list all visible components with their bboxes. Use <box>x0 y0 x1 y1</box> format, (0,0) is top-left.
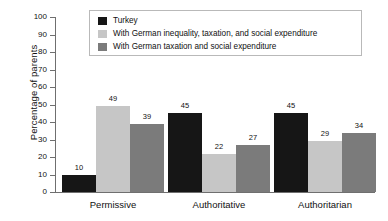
bar-value-label: 45 <box>274 102 308 110</box>
y-tick-label-80: 80 <box>21 48 47 56</box>
legend-item-turkey: Turkey <box>98 15 361 28</box>
y-tick-label-20: 20 <box>21 153 47 161</box>
bar <box>168 113 202 192</box>
bar-value-label: 45 <box>168 102 202 110</box>
legend-label: With German inequality, taxation, and so… <box>113 30 317 38</box>
bar-value-label: 34 <box>342 122 376 130</box>
x-axis-label-permissive: Permissive <box>53 199 173 210</box>
bar <box>342 133 376 193</box>
y-tick-label-100: 100 <box>21 13 47 21</box>
y-tick-mark-0 <box>50 192 55 193</box>
bar-value-label: 39 <box>130 113 164 121</box>
bar-value-label: 10 <box>62 164 96 172</box>
y-tick-label-60: 60 <box>21 83 47 91</box>
legend-swatch-icon <box>98 30 107 38</box>
x-axis-label-authoritarian: Authoritarian <box>265 199 385 210</box>
legend-swatch-icon <box>98 43 107 51</box>
bar <box>236 145 270 192</box>
x-axis-line <box>55 192 375 193</box>
bar-value-label: 49 <box>96 95 130 103</box>
y-tick-label-10: 10 <box>21 171 47 179</box>
legend-item-german-taxation-social: With German taxation and social expendit… <box>98 41 361 54</box>
bar-value-label: 27 <box>236 134 270 142</box>
bar-chart: Percentage of parents 100908070605040302… <box>0 0 388 221</box>
y-tick-label-70: 70 <box>21 66 47 74</box>
bar <box>202 154 236 193</box>
legend-label: With German taxation and social expendit… <box>113 43 276 51</box>
bar <box>308 141 342 192</box>
bar <box>274 113 308 192</box>
y-tick-label-50: 50 <box>21 101 47 109</box>
y-tick-label-40: 40 <box>21 118 47 126</box>
bar <box>96 106 130 192</box>
bar <box>62 175 96 193</box>
legend: Turkey With German inequality, taxation,… <box>89 10 362 56</box>
legend-swatch-icon <box>98 17 107 25</box>
bar-value-label: 29 <box>308 130 342 138</box>
x-axis-label-authoritative: Authoritative <box>159 199 279 210</box>
y-tick-label-0: 0 <box>21 188 47 196</box>
legend-label: Turkey <box>113 17 138 25</box>
y-tick-label-90: 90 <box>21 31 47 39</box>
y-tick-label-30: 30 <box>21 136 47 144</box>
bar <box>130 124 164 192</box>
bar-value-label: 22 <box>202 143 236 151</box>
legend-item-german-inequality-taxation-social: With German inequality, taxation, and so… <box>98 28 361 41</box>
